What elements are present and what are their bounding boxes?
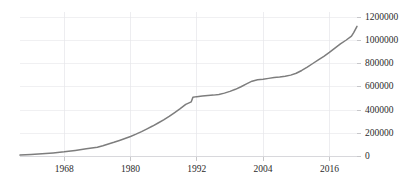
y-axis-tick-label: 200000 — [365, 128, 394, 138]
y-axis-tick-label: 1000000 — [365, 35, 399, 45]
vertical-gridlines — [64, 12, 329, 157]
x-axis-tick-label: 2004 — [254, 164, 273, 174]
horizontal-gridlines — [20, 17, 357, 157]
y-axis-tick-label: 800000 — [365, 58, 394, 68]
x-axis-tick-label: 1992 — [187, 164, 206, 174]
x-axis-tick-label: 1980 — [121, 164, 140, 174]
x-axis-tick-label: 1968 — [55, 164, 74, 174]
y-axis-tick-label: 600000 — [365, 81, 394, 91]
x-axis-tick-labels: 19681980199220042016 — [55, 157, 339, 174]
y-axis-tick-label: 400000 — [365, 105, 394, 115]
line-chart: 020000040000060000080000010000001200000 … — [0, 0, 410, 186]
chart-canvas: 020000040000060000080000010000001200000 … — [0, 0, 410, 186]
data-series-group — [20, 26, 357, 155]
x-axis-tick-label: 2016 — [320, 164, 339, 174]
series-line — [20, 26, 357, 155]
y-axis-tick-labels: 020000040000060000080000010000001200000 — [357, 12, 399, 162]
y-axis-tick-label: 0 — [365, 151, 370, 161]
y-axis-tick-label: 1200000 — [365, 12, 399, 22]
